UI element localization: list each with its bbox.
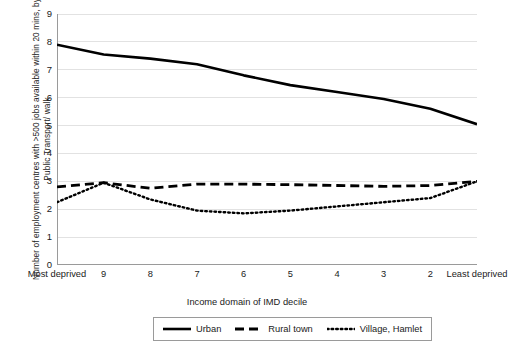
y-tick-label: 9 <box>34 9 52 19</box>
y-tick-label: 3 <box>34 176 52 186</box>
y-tick-label: 1 <box>34 232 52 242</box>
legend-item: Urban <box>163 324 221 334</box>
x-tick-label: Least deprived <box>442 269 512 281</box>
legend-swatch-dashed <box>235 324 263 334</box>
legend-label: Village, Hamlet <box>360 324 422 334</box>
y-tick-label: 6 <box>34 93 52 103</box>
legend-swatch-dotted <box>327 324 355 334</box>
y-tick-label: 5 <box>34 121 52 131</box>
y-tick-label: 4 <box>34 148 52 158</box>
y-tick-label: 7 <box>34 65 52 75</box>
y-tick-label: 2 <box>34 204 52 214</box>
y-axis-tick-labels: 0123456789 <box>30 0 52 347</box>
series-line-urban <box>57 45 477 124</box>
y-tick-label: 8 <box>34 37 52 47</box>
plot-area <box>57 14 477 265</box>
legend-item: Rural town <box>235 324 312 334</box>
legend-label: Rural town <box>268 324 312 334</box>
legend-item: Village, Hamlet <box>327 324 422 334</box>
legend-swatch-solid <box>163 324 191 334</box>
legend-label: Urban <box>196 324 221 334</box>
series-line-rural-town <box>57 181 477 188</box>
plot-canvas <box>57 14 477 265</box>
x-axis-title: Income domain of IMD decile <box>0 297 494 307</box>
chart-legend: UrbanRural townVillage, Hamlet <box>153 317 432 341</box>
